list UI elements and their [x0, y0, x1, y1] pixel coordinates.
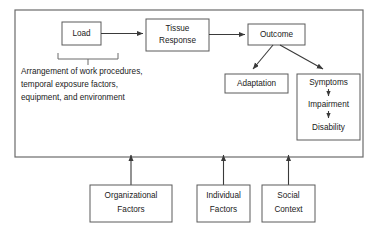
node-load-label: Load [72, 29, 91, 38]
annotation-line-1: Arrangement of work procedures, [21, 67, 143, 76]
diagram-svg: Load Tissue Response Outcome Adaptation … [0, 0, 381, 232]
node-individual-factors-label-line2: Factors [210, 205, 237, 214]
diagram-canvas: Load Tissue Response Outcome Adaptation … [0, 0, 381, 232]
node-organizational-factors-label-line1: Organizational [105, 191, 158, 200]
node-organizational-factors-label-line2: Factors [117, 205, 144, 214]
node-disability-label: Disability [312, 123, 346, 132]
node-social-context-label-line2: Context [274, 205, 303, 214]
node-tissue-response-label-line2: Response [159, 36, 196, 45]
node-outcome-label: Outcome [260, 30, 294, 39]
node-adaptation-label: Adaptation [237, 79, 277, 88]
annotation-line-3: equipment, and environment [21, 93, 126, 102]
node-individual-factors-label-line1: Individual [206, 191, 241, 200]
annotation-line-2: temporal exposure factors, [21, 80, 118, 89]
node-symptoms-label: Symptoms [309, 78, 348, 87]
node-social-context-label-line1: Social [277, 191, 299, 200]
node-impairment-label: Impairment [308, 100, 350, 109]
node-tissue-response-label-line1: Tissue [166, 24, 190, 33]
